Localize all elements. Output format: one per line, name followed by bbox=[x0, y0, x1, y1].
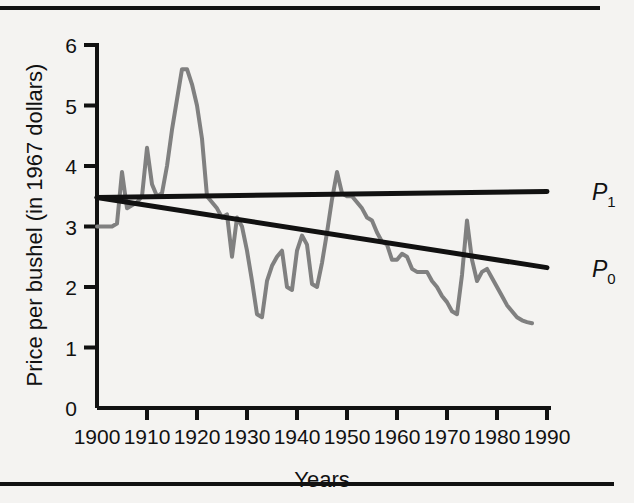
x-tick-label: 1940 bbox=[274, 425, 321, 448]
chart-plot-area: 0123456 19001910192019301940195019601970… bbox=[0, 0, 634, 503]
y-axis-title: Price per bushel (in 1967 dollars) bbox=[22, 64, 47, 387]
p1-label: P1 bbox=[592, 179, 616, 210]
y-tick-label: 4 bbox=[65, 155, 77, 178]
p1-label-subscript: 1 bbox=[607, 193, 615, 210]
y-tick-label: 5 bbox=[65, 95, 77, 118]
line-chart: 0123456 19001910192019301940195019601970… bbox=[0, 0, 634, 503]
x-tick-label: 1980 bbox=[474, 425, 521, 448]
chart-axes bbox=[97, 43, 551, 408]
x-tick-label: 1990 bbox=[524, 425, 571, 448]
p0-label-subscript: 0 bbox=[607, 270, 615, 287]
p0-label: P0 bbox=[592, 256, 616, 287]
y-tick-label: 0 bbox=[65, 397, 77, 420]
x-tick-label: 1900 bbox=[74, 425, 121, 448]
x-tick-label: 1960 bbox=[374, 425, 421, 448]
x-tick-label: 1970 bbox=[424, 425, 471, 448]
y-axis-ticks: 0123456 bbox=[65, 34, 97, 420]
x-tick-label: 1920 bbox=[174, 425, 221, 448]
y-tick-label: 2 bbox=[65, 276, 77, 299]
chart-series-layer bbox=[97, 69, 547, 323]
x-axis-title: Years bbox=[294, 467, 349, 492]
y-tick-label: 3 bbox=[65, 216, 77, 239]
series-trend-p1 bbox=[97, 191, 547, 197]
y-tick-label: 1 bbox=[65, 337, 77, 360]
y-tick-label: 6 bbox=[65, 34, 77, 57]
figure-container: 0123456 19001910192019301940195019601970… bbox=[0, 0, 634, 503]
x-tick-label: 1910 bbox=[124, 425, 171, 448]
x-axis-ticks: 1900191019201930194019501960197019801990 bbox=[74, 408, 571, 448]
x-tick-label: 1930 bbox=[224, 425, 271, 448]
x-tick-label: 1950 bbox=[324, 425, 371, 448]
chart-annotation-layer: P1P0 bbox=[592, 179, 616, 286]
